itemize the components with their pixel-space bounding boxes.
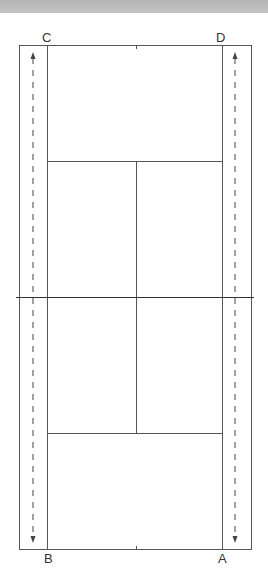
corner-label-bottom-left: B	[44, 552, 53, 565]
corner-label-top-left: C	[42, 31, 51, 44]
tennis-court-diagram	[0, 0, 268, 584]
corner-label-bottom-right: A	[218, 552, 227, 565]
corner-label-top-right: D	[216, 31, 225, 44]
